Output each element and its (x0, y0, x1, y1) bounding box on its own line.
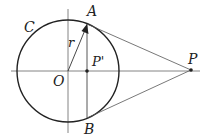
label-point-b: B (83, 121, 94, 137)
label-point-a: A (85, 3, 97, 19)
label-point-p-prime: P' (91, 54, 104, 69)
label-center-o: O (53, 73, 65, 89)
tangent-line-bp (87, 70, 191, 118)
geometry-diagram: C A r O P' P B (0, 0, 211, 137)
label-radius-r: r (68, 35, 75, 50)
point-p (189, 68, 193, 72)
point-p-prime (85, 69, 89, 73)
label-point-p: P (187, 51, 198, 67)
label-circle-c: C (24, 19, 35, 35)
